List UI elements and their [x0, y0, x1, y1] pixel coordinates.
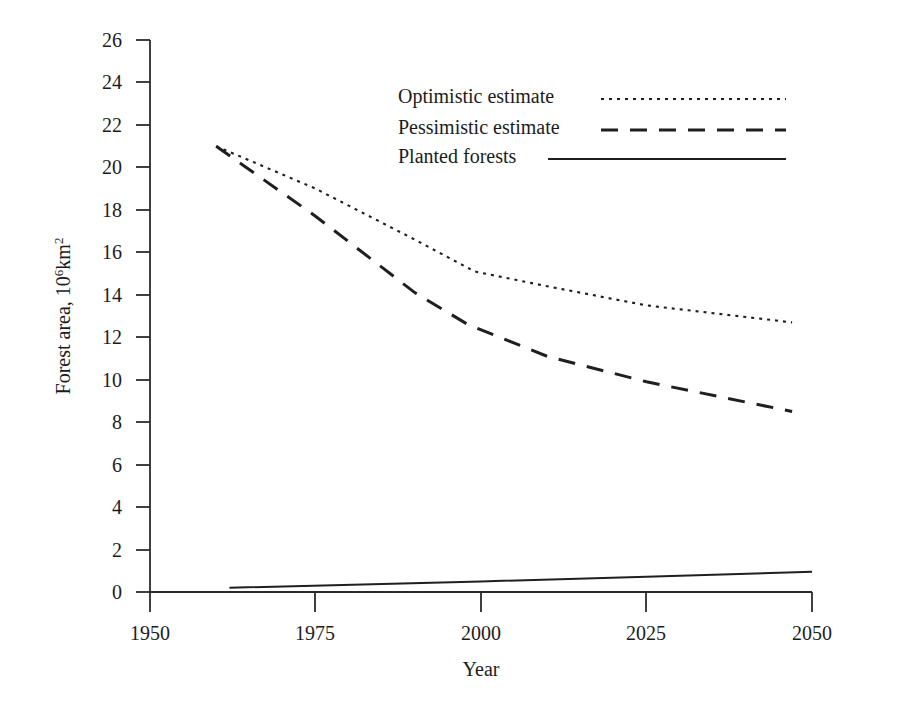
legend-label-planted-forests: Planted forests — [398, 145, 517, 167]
x-axis-title: Year — [463, 658, 500, 680]
y-tick-label: 12 — [102, 326, 122, 348]
legend-label-pessimistic-estimate: Pessimistic estimate — [398, 116, 560, 138]
x-tick-label: 2025 — [626, 622, 666, 644]
series-line-optimistic-estimate — [216, 146, 792, 322]
y-tick-label: 14 — [102, 284, 122, 306]
chart-canvas: 26 24 22 20 18 16 14 12 10 8 6 4 2 0 195… — [0, 0, 897, 709]
y-tick-label: 10 — [102, 369, 122, 391]
x-tick-label: 2050 — [792, 622, 832, 644]
y-tick-label: 20 — [102, 156, 122, 178]
y-axis-title: Forest area, 106km2 — [51, 238, 74, 395]
y-tick-label: 22 — [102, 114, 122, 136]
y-tick-label: 6 — [112, 454, 122, 476]
x-axis-tick-labels: 1950 1975 2000 2025 2050 — [130, 622, 832, 644]
x-tick-label: 1950 — [130, 622, 170, 644]
y-axis-title-unit-exponent: 2 — [51, 238, 66, 245]
chart-legend: Optimistic estimate Pessimistic estimate… — [398, 85, 786, 167]
y-axis-title-base: Forest area, 10 — [52, 276, 74, 394]
series-line-planted-forests — [229, 572, 812, 588]
x-tick-label: 1975 — [295, 622, 335, 644]
y-axis-tick-labels: 26 24 22 20 18 16 14 12 10 8 6 4 2 0 — [102, 29, 122, 603]
y-tick-label: 0 — [112, 581, 122, 603]
y-tick-label: 16 — [102, 241, 122, 263]
series-line-pessimistic-estimate — [216, 146, 792, 411]
y-tick-label: 18 — [102, 199, 122, 221]
x-axis-ticks — [150, 592, 812, 612]
y-tick-label: 24 — [102, 71, 122, 93]
y-tick-label: 26 — [102, 29, 122, 51]
y-tick-label: 8 — [112, 411, 122, 433]
x-tick-label: 2000 — [461, 622, 501, 644]
y-tick-label: 2 — [112, 539, 122, 561]
svg-text:Forest area, 106km2: Forest area, 106km2 — [51, 238, 74, 395]
y-axis-title-unit: km — [52, 244, 74, 270]
y-axis-ticks — [136, 40, 150, 592]
forest-area-line-chart: 26 24 22 20 18 16 14 12 10 8 6 4 2 0 195… — [0, 0, 897, 709]
y-tick-label: 4 — [112, 496, 122, 518]
legend-label-optimistic-estimate: Optimistic estimate — [398, 85, 554, 108]
